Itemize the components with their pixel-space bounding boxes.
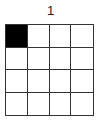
grid-cell-r0-c0 xyxy=(6,25,28,48)
grid-label: 1 xyxy=(0,4,101,18)
grid-cell-r3-c2 xyxy=(50,93,72,116)
grid-cell-r0-c3 xyxy=(71,25,93,48)
grid-cell-r2-c1 xyxy=(28,70,50,93)
grid-4x4 xyxy=(5,24,94,116)
grid-cell-r2-c0 xyxy=(6,70,28,93)
grid-cell-r3-c1 xyxy=(28,93,50,116)
grid-cell-r1-c0 xyxy=(6,48,28,71)
grid-cell-r3-c3 xyxy=(71,93,93,116)
grid-cell-r2-c2 xyxy=(50,70,72,93)
grid-cell-r1-c1 xyxy=(28,48,50,71)
grid-cell-r2-c3 xyxy=(71,70,93,93)
grid-cell-r0-c2 xyxy=(50,25,72,48)
grid-cell-r1-c3 xyxy=(71,48,93,71)
grid-cell-r1-c2 xyxy=(50,48,72,71)
grid-cell-r3-c0 xyxy=(6,93,28,116)
grid-cell-r0-c1 xyxy=(28,25,50,48)
